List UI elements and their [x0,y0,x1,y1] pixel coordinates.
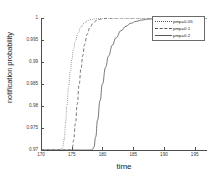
y-axis-tick-label: 1 [35,15,38,20]
legend-swatch-dashed-icon [155,26,172,32]
x-axis-tick-label: 180 [99,152,107,157]
legend: pmp=0.05 pmp=0.1 pmp=0.2 [152,16,205,41]
x-axis-tick-label: 195 [191,152,199,157]
x-axis-tick-label: 175 [68,152,76,157]
legend-swatch-solid-icon [155,32,172,38]
legend-entry: pmp=0.05 [155,19,202,26]
legend-entry-label: pmp=0.1 [172,26,190,31]
legend-swatch-dotted-icon [155,19,172,25]
legend-entry-label: pmp=0.2 [172,33,190,38]
x-axis-tick-label: 190 [160,152,168,157]
y-axis-tick-mark [41,150,44,151]
y-axis-tick-label: 0.99 [29,59,38,64]
x-axis-tick-label: 185 [129,152,137,157]
legend-entry-label: pmp=0.05 [172,19,193,24]
y-axis-tick-label: 0.995 [27,37,39,42]
y-axis-tick-label: 0.985 [27,81,39,86]
y-axis-tick-label: 0.98 [29,103,38,108]
y-axis-label: notification probability [5,8,14,128]
legend-entry: pmp=0.1 [155,25,202,32]
legend-entry: pmp=0.2 [155,32,202,39]
x-axis-label: time [41,162,207,171]
x-axis-tick-label: 170 [37,152,45,157]
x-axis-line [41,150,207,151]
chart-figure: 0.970.9750.980.9850.990.9951 17017518018… [0,0,220,178]
y-axis-tick-label: 0.975 [27,125,39,130]
